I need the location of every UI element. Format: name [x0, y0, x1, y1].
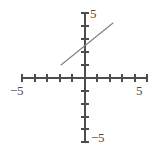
- plot-canvas: [0, 0, 155, 153]
- x-axis-min-label: −5: [10, 84, 23, 97]
- y-axis-min-label: −5: [91, 131, 104, 144]
- plotted-line-segment: [61, 23, 113, 65]
- y-axis-max-label: 5: [90, 7, 96, 20]
- x-axis-max-label: 5: [136, 84, 142, 97]
- coordinate-plane-figure: 5 −5 −5 5: [0, 0, 155, 153]
